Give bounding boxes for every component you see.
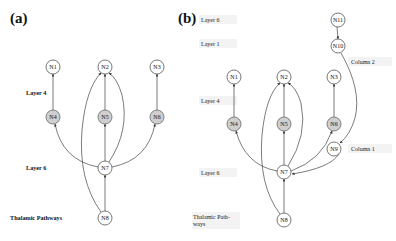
panel-a-label: (a) [10,10,28,27]
diagram-canvas: (a) Layer 4 Layer 6 Thalamic Pathways N1… [0,0,396,241]
svg-text:N8: N8 [101,215,108,221]
panel-a: (a) Layer 4 Layer 6 Thalamic Pathways N1… [10,10,164,225]
edge-n11-n10 [337,27,338,39]
edge-n7-n4 [55,124,98,167]
layer-1-label: Layer 1 [201,41,220,47]
node-n1: N1 [46,60,60,74]
svg-text:N3: N3 [153,64,160,70]
node-n2: N2 [277,70,291,84]
layer-6-label: Layer 6 [201,170,220,176]
edge-n7-n6 [112,124,155,167]
node-n8: N8 [277,213,291,227]
node-n2: N2 [98,60,112,74]
layer-6-top-label: Layer 6 [201,17,220,23]
thalamic-pathways-label: Thalamic Pathways [10,214,63,221]
node-n10: N10 [331,39,345,53]
svg-text:N6: N6 [153,114,160,120]
svg-text:N5: N5 [101,114,108,120]
node-n11: N11 [331,13,345,27]
column-2-label: Column 2 [351,59,375,65]
svg-text:N2: N2 [280,74,287,80]
node-n4: N4 [227,117,241,131]
edge-n7-n6 [291,131,332,171]
svg-text:N6: N6 [330,121,337,127]
svg-text:N7: N7 [280,169,287,175]
svg-text:N3: N3 [330,74,337,80]
svg-text:N4: N4 [230,121,237,127]
node-n7: N7 [98,161,112,175]
svg-text:N1: N1 [49,64,56,70]
svg-text:N7: N7 [101,165,108,171]
edge-n7-n4 [236,131,277,171]
node-n1: N1 [227,70,241,84]
svg-text:N8: N8 [280,217,287,223]
node-n5: N5 [98,110,112,124]
node-n3: N3 [150,60,164,74]
node-n7: N7 [277,165,291,179]
edge-n10-n9 [340,53,357,143]
panel-b-label: (b) [178,10,196,27]
svg-text:N2: N2 [101,64,108,70]
thalamic-pathways-label-line2: ways [193,221,206,227]
node-n3: N3 [327,70,341,84]
svg-text:N4: N4 [49,114,56,120]
svg-text:N1: N1 [230,74,237,80]
panel-b: (b) Layer 6 Layer 1 Layer 4 Layer 6 Thal… [178,10,392,229]
column-1-label: Column 1 [351,146,375,152]
layer-6-label: Layer 6 [26,164,46,171]
svg-text:N9: N9 [330,146,337,152]
svg-text:N11: N11 [333,17,343,23]
node-n4: N4 [46,110,60,124]
svg-text:N10: N10 [333,43,343,49]
svg-text:N5: N5 [280,121,287,127]
layer-4-label: Layer 4 [26,89,46,96]
node-n6: N6 [327,117,341,131]
panel-a-edges [53,73,157,212]
node-n9: N9 [327,142,341,156]
thalamic-pathways-label-line1: Thalamic Path- [193,214,230,220]
edge-n8-n2 [81,73,101,212]
node-n6: N6 [150,110,164,124]
node-n5: N5 [277,117,291,131]
node-n8: N8 [98,211,112,225]
edge-n8-n2 [261,83,280,214]
layer-4-label: Layer 4 [201,98,220,104]
